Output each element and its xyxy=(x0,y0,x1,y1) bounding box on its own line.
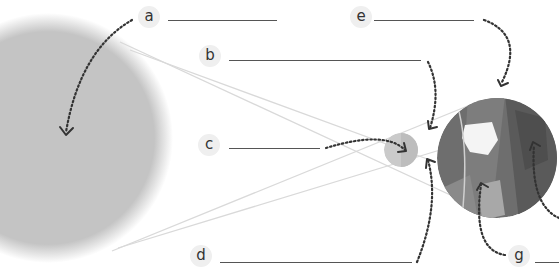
sun xyxy=(0,13,173,263)
pointer-e xyxy=(484,20,510,82)
label-g: g xyxy=(508,245,530,267)
diagram-canvas xyxy=(0,0,559,267)
label-e: e xyxy=(350,6,372,28)
answer-line-e[interactable] xyxy=(374,20,474,21)
answer-line-c[interactable] xyxy=(229,148,320,149)
answer-line-d[interactable] xyxy=(220,262,412,263)
label-d: d xyxy=(190,245,212,267)
ray-upper-1 xyxy=(120,42,500,218)
answer-line-b[interactable] xyxy=(229,60,421,61)
arrowhead-d-icon xyxy=(426,159,435,168)
pointer-b xyxy=(428,62,436,128)
earth xyxy=(437,95,559,230)
label-a: a xyxy=(138,6,160,28)
eclipse-diagram: a b c d e g xyxy=(0,0,559,267)
answer-line-a[interactable] xyxy=(168,20,277,21)
moon xyxy=(384,130,421,170)
answer-line-g[interactable] xyxy=(535,262,559,263)
pointer-d xyxy=(417,160,432,262)
label-b: b xyxy=(199,45,221,67)
label-c: c xyxy=(198,134,220,156)
ray-upper-2 xyxy=(130,50,430,160)
